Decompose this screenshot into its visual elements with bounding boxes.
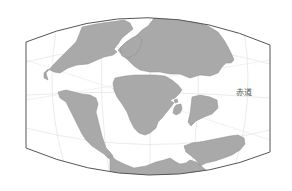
island-1 [173, 104, 182, 115]
map-body [26, 0, 270, 191]
landmasses [44, 17, 245, 186]
landmass-south-america [58, 90, 113, 160]
island-2 [174, 99, 178, 103]
landmass-antarctica [110, 155, 206, 186]
landmass-africa [113, 75, 182, 135]
equator-label: 赤道 [236, 86, 252, 97]
